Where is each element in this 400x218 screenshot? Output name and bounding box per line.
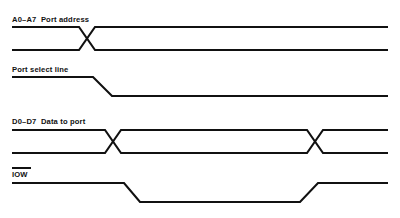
diagram-background — [0, 0, 400, 218]
label-group-port-select-line: Port select line — [12, 65, 68, 74]
signal-label-port-select-line: Port select line — [12, 65, 68, 74]
signal-label-iow-strobe: IOW — [12, 170, 28, 179]
label-group-data-bus: D0–D7 Data to port — [12, 117, 86, 126]
signal-label-address-bus: A0–A7 Port address — [12, 15, 89, 24]
timing-diagram: A0–A7 Port addressPort select lineD0–D7 … — [0, 0, 400, 218]
signal-label-data-bus: D0–D7 Data to port — [12, 117, 86, 126]
label-group-address-bus: A0–A7 Port address — [12, 15, 89, 24]
timing-diagram-canvas: A0–A7 Port addressPort select lineD0–D7 … — [0, 0, 400, 218]
